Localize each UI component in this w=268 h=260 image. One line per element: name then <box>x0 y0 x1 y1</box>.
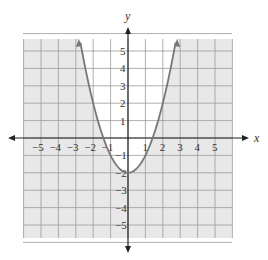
y-tick-label: −5 <box>115 219 127 231</box>
graph: xy−5−4−3−2−11234554321−1−2−3−4−5 <box>0 0 268 260</box>
x-tick-label: 3 <box>177 141 183 153</box>
y-tick-label: 4 <box>120 62 126 74</box>
x-tick-label: 5 <box>212 141 218 153</box>
x-tick-label: −2 <box>84 141 96 153</box>
x-tick-label: −5 <box>32 141 44 153</box>
x-axis-left-arrow-icon <box>8 135 15 141</box>
x-tick-label: 4 <box>195 141 201 153</box>
y-tick-label: 2 <box>120 97 126 109</box>
y-tick-label: −4 <box>115 202 127 214</box>
y-tick-label: 5 <box>120 45 126 57</box>
y-tick-label: −1 <box>115 149 127 161</box>
y-tick-label: −3 <box>115 184 127 196</box>
y-axis-down-arrow-icon <box>125 246 131 253</box>
x-axis-right-arrow-icon <box>242 135 249 141</box>
y-axis-label: y <box>124 9 131 23</box>
x-axis-label: x <box>253 131 260 145</box>
y-tick-label: 3 <box>120 80 126 92</box>
x-tick-label: 2 <box>160 141 166 153</box>
y-tick-label: 1 <box>120 115 126 127</box>
x-tick-label: −4 <box>49 141 61 153</box>
x-tick-label: −3 <box>67 141 79 153</box>
